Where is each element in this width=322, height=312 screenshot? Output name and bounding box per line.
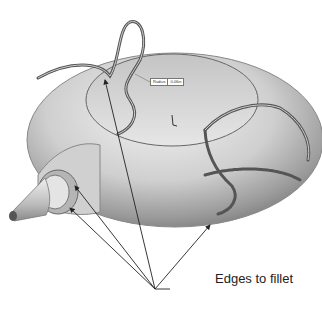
radius-tag-name: Radius — [151, 79, 167, 85]
radius-tag-value: 0.06in — [167, 79, 183, 85]
cad-figure — [0, 0, 322, 312]
radius-dimension-tag: Radius 0.06in — [150, 78, 184, 86]
edges-to-fillet-label: Edges to fillet — [215, 271, 293, 286]
